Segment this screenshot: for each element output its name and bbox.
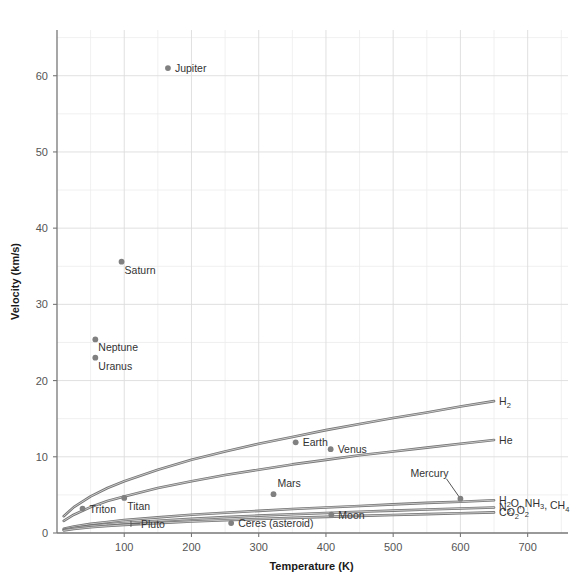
y-tick-label: 50 <box>36 146 48 158</box>
y-tick-label: 40 <box>36 222 48 234</box>
x-tick-label: 500 <box>384 541 402 553</box>
point-label-ceres-asteroid-: Ceres (asteroid) <box>238 517 313 529</box>
point-label-mars: Mars <box>278 477 301 489</box>
y-tick-label: 30 <box>36 298 48 310</box>
curve-label-he: He <box>499 434 513 446</box>
data-point-jupiter <box>165 65 171 71</box>
svg-text:He: He <box>499 434 513 446</box>
plot-canvas: 1002003004005006007000102030405060Temper… <box>0 0 584 575</box>
data-point-moon <box>328 512 334 518</box>
x-axis-title: Temperature (K) <box>269 560 353 572</box>
y-tick-label: 60 <box>36 70 48 82</box>
y-tick-label: 10 <box>36 451 48 463</box>
point-label-saturn: Saturn <box>125 264 156 276</box>
point-label-triton: Triton <box>90 503 117 515</box>
data-point-venus <box>328 446 334 452</box>
x-tick-label: 300 <box>250 541 268 553</box>
plot-background <box>57 30 568 533</box>
point-label-moon: Moon <box>338 509 364 521</box>
data-point-ceres-asteroid- <box>228 520 234 526</box>
point-label-venus: Venus <box>338 443 367 455</box>
data-point-earth <box>293 439 299 445</box>
point-label-neptune: Neptune <box>98 341 138 353</box>
point-label-earth: Earth <box>303 436 328 448</box>
point-label-jupiter: Jupiter <box>175 62 207 74</box>
y-axis-title: Velocity (km/s) <box>9 243 21 320</box>
velocity-temperature-chart: 1002003004005006007000102030405060Temper… <box>0 0 584 575</box>
x-tick-label: 600 <box>451 541 469 553</box>
x-tick-label: 700 <box>518 541 536 553</box>
data-point-mars <box>271 491 277 497</box>
point-label-uranus: Uranus <box>98 360 132 372</box>
point-label-pluto: Pluto <box>141 518 165 530</box>
point-label-titan: Titan <box>127 500 150 512</box>
x-tick-label: 200 <box>182 541 200 553</box>
x-tick-label: 400 <box>317 541 335 553</box>
data-point-triton <box>80 506 86 512</box>
y-tick-label: 20 <box>36 375 48 387</box>
data-point-mercury <box>458 496 464 502</box>
x-tick-label: 100 <box>115 541 133 553</box>
point-label-mercury: Mercury <box>410 467 449 479</box>
y-tick-label: 0 <box>42 527 48 539</box>
